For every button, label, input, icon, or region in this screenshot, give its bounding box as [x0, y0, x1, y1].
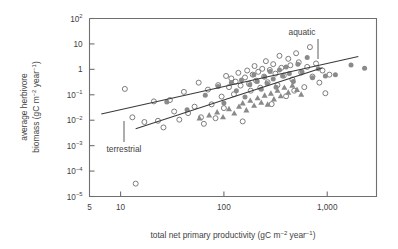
- data-point-open-circle: [260, 66, 265, 71]
- y-axis-title-part-c: ): [31, 61, 41, 64]
- y-tick-label-6: 10−4: [67, 166, 83, 176]
- annotation-terrestrial: terrestrial: [107, 144, 142, 154]
- y-tick-label-3: 10−1: [67, 89, 83, 99]
- data-point-open-circle: [307, 45, 312, 50]
- data-point-filled-circle: [295, 62, 300, 67]
- y-axis-title-part-a: biomass (gC m: [31, 96, 41, 152]
- data-point-open-circle: [181, 89, 186, 94]
- data-point-filled-circle: [203, 93, 208, 98]
- data-point-open-circle: [224, 73, 229, 78]
- data-point-open-circle: [161, 125, 166, 130]
- data-point-filled-triangle: [251, 102, 257, 107]
- y-axis-title: average herbivore biomass (gC m−2 year−1…: [19, 61, 41, 153]
- data-point-open-circle: [236, 70, 241, 75]
- data-point-filled-triangle: [226, 106, 232, 111]
- data-point-filled-triangle: [255, 95, 261, 100]
- data-point-filled-triangle: [240, 100, 246, 105]
- data-point-open-circle: [122, 86, 127, 91]
- data-point-filled-triangle: [268, 90, 274, 95]
- x-tick-label-1: 10: [116, 203, 126, 212]
- data-point-open-circle: [252, 64, 257, 69]
- data-point-filled-circle: [349, 62, 354, 67]
- data-point-filled-circle: [277, 67, 282, 72]
- data-point-filled-circle: [251, 72, 256, 77]
- y-axis-title-line2: biomass (gC m−2 year−1): [31, 61, 41, 153]
- y-tick-label-7: 10−5: [67, 191, 83, 201]
- data-point-open-circle: [245, 68, 250, 73]
- y-axis-title-line1: average herbivore: [19, 73, 29, 141]
- scatter-plot-svg: 10210110−110−210−310−410−5 5101001,000 a…: [0, 0, 398, 249]
- data-point-filled-circle: [310, 75, 315, 80]
- data-point-filled-triangle: [231, 110, 237, 115]
- x-axis-tick-labels: 5101001,000: [87, 203, 338, 212]
- data-point-filled-triangle: [278, 93, 284, 98]
- x-tick-label-2: 100: [217, 203, 231, 212]
- data-point-open-circle: [288, 63, 293, 68]
- data-point-filled-circle: [242, 94, 247, 99]
- data-points: [122, 45, 367, 187]
- y-tick-label-1: 10: [73, 40, 83, 49]
- x-axis-title: total net primary productivity (gC m−2 y…: [151, 230, 316, 240]
- data-point-open-circle: [277, 53, 282, 58]
- data-point-open-circle: [302, 85, 307, 90]
- data-point-filled-circle: [247, 82, 252, 87]
- x-axis-ticks: [121, 192, 328, 197]
- figure-container: 10210110−110−210−310−410−5 5101001,000 a…: [0, 0, 398, 249]
- data-point-open-circle: [213, 116, 218, 121]
- y-tick-label-2: 1: [78, 65, 83, 74]
- data-point-filled-triangle: [281, 84, 287, 89]
- data-point-open-circle: [219, 94, 224, 99]
- data-point-open-circle: [172, 109, 177, 114]
- x-axis-title-part-a: total net primary productivity (gC m: [151, 230, 281, 240]
- data-point-filled-circle: [268, 69, 273, 74]
- data-point-filled-circle: [234, 88, 239, 93]
- data-point-open-circle: [323, 91, 328, 96]
- data-point-filled-triangle: [220, 114, 226, 119]
- x-axis-title-part-b: year: [287, 230, 306, 240]
- x-axis-title-part-c: ): [313, 230, 316, 240]
- data-point-open-circle: [294, 51, 299, 56]
- y-tick-label-5: 10−3: [67, 140, 83, 150]
- y-axis-tick-labels: 10210110−110−210−310−410−5: [67, 13, 83, 201]
- y-axis-title-part-b: year: [31, 71, 41, 90]
- data-point-filled-triangle: [206, 112, 212, 117]
- x-tick-label-0: 5: [87, 203, 92, 212]
- data-point-filled-circle: [284, 64, 289, 69]
- y-tick-label-4: 10−2: [67, 115, 83, 125]
- data-point-open-circle: [196, 80, 201, 85]
- data-point-filled-circle: [305, 55, 310, 60]
- data-point-open-circle: [238, 83, 243, 88]
- data-point-open-circle: [317, 80, 322, 85]
- x-tick-label-3: 1,000: [317, 203, 338, 212]
- data-point-filled-circle: [333, 72, 338, 77]
- data-point-open-circle: [263, 59, 268, 64]
- data-point-filled-triangle: [243, 107, 249, 112]
- data-point-open-circle: [142, 120, 147, 125]
- data-point-open-circle: [240, 119, 245, 124]
- data-point-filled-circle: [221, 101, 226, 106]
- data-point-filled-triangle: [262, 92, 268, 97]
- data-point-filled-circle: [323, 73, 328, 78]
- data-point-filled-triangle: [271, 96, 277, 101]
- data-point-open-circle: [201, 121, 206, 126]
- data-point-filled-circle: [271, 76, 276, 81]
- data-point-open-circle: [133, 181, 138, 186]
- data-point-open-circle: [221, 106, 226, 111]
- data-point-open-circle: [271, 62, 276, 67]
- data-point-filled-circle: [362, 66, 367, 71]
- annotation-aquatic: aquatic: [288, 27, 315, 37]
- data-point-filled-triangle: [214, 109, 220, 114]
- data-point-filled-triangle: [247, 97, 253, 102]
- data-point-open-circle: [286, 56, 291, 61]
- y-tick-label-0: 102: [70, 13, 82, 23]
- data-point-filled-circle: [291, 79, 296, 84]
- data-point-open-circle: [130, 115, 135, 120]
- y-axis-ticks: [90, 19, 95, 197]
- data-point-open-circle: [177, 117, 182, 122]
- data-point-filled-triangle: [196, 115, 202, 120]
- data-point-filled-triangle: [298, 91, 304, 96]
- data-point-filled-triangle: [285, 89, 291, 94]
